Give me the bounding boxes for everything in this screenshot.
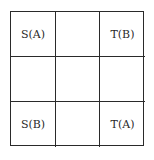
cell-r2-c2 bbox=[56, 57, 100, 102]
grid-3x3: S(A) T(B) S(B) T(A) bbox=[10, 11, 144, 146]
cell-r1-c2 bbox=[56, 12, 100, 57]
cell-r2-c1 bbox=[11, 57, 56, 102]
cell-r1-c3: T(B) bbox=[100, 12, 145, 57]
cell-r2-c3 bbox=[100, 57, 145, 102]
cell-r3-c3: T(A) bbox=[100, 102, 145, 147]
cell-r1-c1: S(A) bbox=[11, 12, 56, 57]
cell-r3-c2 bbox=[56, 102, 100, 147]
cell-r3-c1: S(B) bbox=[11, 102, 56, 147]
